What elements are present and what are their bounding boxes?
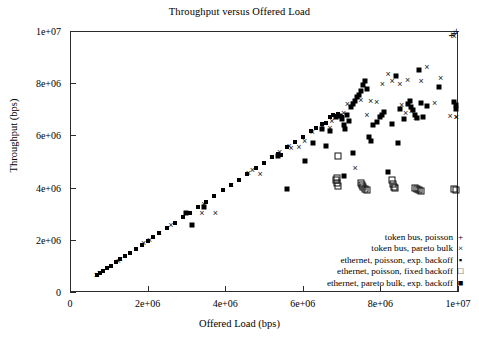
data-point (134, 247, 138, 251)
y-tick (70, 292, 76, 293)
legend-item: ethernet, pareto bulk, exp. backoff■ (327, 278, 465, 289)
data-point (421, 115, 426, 120)
data-point (181, 215, 185, 219)
data-point: × (353, 163, 358, 172)
y-tick-label: 0 (0, 287, 61, 298)
data-point (397, 106, 402, 111)
data-point (341, 173, 346, 178)
data-point (285, 145, 289, 149)
data-point (327, 128, 332, 133)
data-point (275, 154, 280, 159)
data-point (415, 115, 420, 120)
data-point (293, 140, 297, 144)
data-point: × (424, 62, 429, 71)
data-point (424, 103, 429, 108)
data-point (359, 89, 364, 94)
data-point: × (418, 76, 423, 85)
data-point (309, 129, 313, 133)
data-point (347, 119, 352, 124)
data-point (254, 166, 258, 170)
data-point (314, 126, 318, 130)
y-tick (70, 240, 76, 241)
y-axis-label: Throughput (bps) (8, 61, 19, 211)
data-point (407, 98, 412, 103)
data-point (310, 141, 315, 146)
data-point (245, 172, 249, 176)
data-point: × (368, 97, 373, 106)
data-point (364, 86, 369, 91)
legend-item-label: token bus, poisson (385, 232, 453, 242)
data-point: × (438, 73, 443, 82)
chart-legend: token bus, poisson+token bus, pareto bul… (327, 232, 465, 289)
data-point (343, 126, 348, 131)
x-tick-label: 6e+06 (290, 298, 315, 309)
data-point (301, 135, 305, 139)
data-point (395, 140, 400, 145)
data-point (140, 243, 144, 247)
data-point (157, 231, 161, 235)
data-point (302, 159, 307, 164)
y-tick-label: 1e+07 (0, 26, 61, 37)
data-point (114, 260, 118, 264)
data-point (368, 138, 373, 143)
y-tick-label: 2e+06 (0, 234, 61, 245)
data-point: × (257, 170, 262, 179)
data-point: × (432, 98, 437, 107)
x-axis-label: Offered Load (bps) (0, 318, 479, 329)
y-tick (70, 135, 76, 136)
data-point (165, 226, 169, 230)
legend-item-marker: ■ (456, 278, 465, 289)
data-point (196, 205, 200, 209)
data-point: × (296, 143, 301, 152)
legend-item: ethernet, poisson, fixed backoff□ (327, 266, 465, 277)
data-point (128, 251, 132, 255)
data-point (374, 119, 379, 124)
data-point: × (374, 97, 379, 106)
x-tick-label: 0 (68, 298, 73, 309)
data-point (221, 188, 225, 192)
legend-item-marker: ▪ (456, 255, 465, 266)
data-point: × (405, 76, 410, 85)
data-point (190, 223, 195, 228)
data-point (334, 183, 341, 190)
data-point (229, 183, 233, 187)
x-tick (225, 286, 226, 292)
chart-title: Throughput versus Offered Load (0, 6, 479, 17)
data-point (270, 155, 274, 159)
data-point (183, 210, 188, 215)
data-point (453, 186, 460, 193)
data-point (401, 116, 406, 121)
data-point (204, 200, 208, 204)
data-point: × (199, 209, 204, 218)
legend-item: token bus, pareto bulk× (327, 243, 465, 254)
x-tick (70, 286, 71, 292)
legend-item: ethernet, poisson, exp. backoff▪ (327, 255, 465, 266)
x-tick (148, 286, 149, 292)
chart-root: Throughput versus Offered Load +++××××××… (0, 0, 479, 341)
legend-item-label: ethernet, poisson, fixed backoff (337, 266, 453, 276)
data-point (392, 185, 399, 192)
data-point (363, 187, 370, 194)
data-point (334, 153, 341, 160)
data-point (262, 161, 266, 165)
data-point (339, 116, 344, 121)
data-point: × (213, 208, 218, 217)
legend-item: token bus, poisson+ (327, 232, 465, 243)
data-point (418, 187, 425, 194)
data-point (201, 204, 206, 209)
data-point (151, 235, 155, 239)
data-point (362, 79, 367, 84)
legend-item-label: token bus, pareto bulk (371, 243, 453, 253)
data-point (417, 68, 422, 73)
data-point (333, 175, 340, 182)
data-point: × (289, 144, 294, 153)
data-point (320, 126, 325, 131)
data-point (109, 264, 113, 268)
data-point (393, 73, 398, 78)
data-point (454, 107, 459, 112)
legend-item-marker: + (456, 232, 465, 243)
x-tick-label: 4e+06 (213, 298, 238, 309)
data-point: × (448, 111, 453, 120)
data-point (285, 186, 290, 191)
data-point (212, 194, 216, 198)
